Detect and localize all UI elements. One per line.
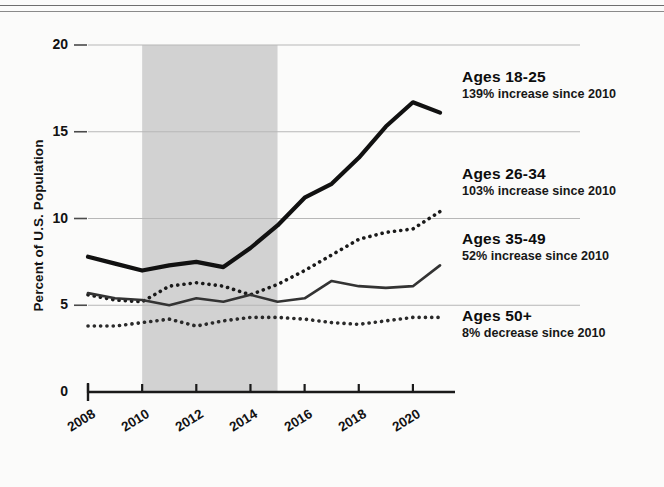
legend-entry-title: Ages 26-34 [462, 165, 662, 183]
legend-entry-title: Ages 18-25 [462, 68, 662, 86]
legend-entry-title: Ages 50+ [462, 307, 662, 325]
legend-entry-3: Ages 35-4952% increase since 2010 [462, 230, 662, 263]
legend-entry-1: Ages 18-25139% increase since 2010 [462, 68, 662, 101]
legend-entry-subtitle: 8% decrease since 2010 [462, 326, 662, 340]
y-tick-label: 10 [22, 210, 68, 226]
y-tick-label: 15 [22, 123, 68, 139]
y-tick-label: 5 [22, 296, 68, 312]
legend-entry-4: Ages 50+8% decrease since 2010 [462, 307, 662, 340]
chart-figure: Percent of U.S. Population 05101520 2008… [0, 0, 664, 487]
legend-entry-2: Ages 26-34103% increase since 2010 [462, 165, 662, 198]
legend-entry-subtitle: 139% increase since 2010 [462, 87, 662, 101]
y-tick-label: 20 [22, 36, 68, 52]
legend-entry-title: Ages 35-49 [462, 230, 662, 248]
legend-entry-subtitle: 52% increase since 2010 [462, 249, 662, 263]
y-tick-label: 0 [22, 383, 68, 399]
legend-entry-subtitle: 103% increase since 2010 [462, 184, 662, 198]
